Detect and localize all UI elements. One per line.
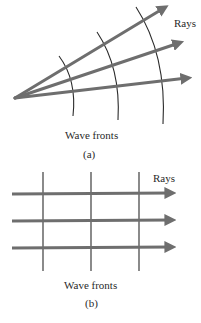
caption-a: (a) [83,148,96,161]
rays-label-a: Rays [174,17,196,29]
rays-label-b: Rays [153,172,175,184]
wavefronts-label-b: Wave fronts [64,279,117,291]
ray-arrow-top [12,193,171,194]
wavefront-arc-3 [136,7,163,124]
wave-fronts-diagram: Rays Wave fronts (a) Rays Wave fronts (b… [0,0,201,323]
panel-a-spherical-wave: Rays Wave fronts (a) [15,7,196,161]
panel-b-plane-wave: Rays Wave fronts (b) [12,172,175,310]
wavefronts-label-a: Wave fronts [65,129,118,141]
rays-diverging [15,8,187,98]
ray-arrow-middle [12,220,171,221]
ray-arrow-bottom [12,247,171,248]
caption-b: (b) [85,297,98,310]
